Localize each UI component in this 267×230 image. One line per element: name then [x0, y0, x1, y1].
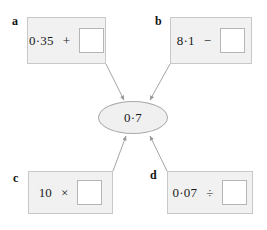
operand-a: 0·35 — [29, 33, 54, 49]
card-label-c: c — [13, 171, 18, 186]
arrow-from-card-a — [106, 64, 124, 100]
arrow-from-card-b — [150, 64, 170, 100]
division-sign-icon: ÷ — [206, 185, 213, 201]
target-value-text: 0·7 — [124, 110, 142, 126]
expression-card-a: 0·35 + — [27, 17, 106, 64]
answer-input-a[interactable] — [79, 28, 104, 53]
expression-row-b: 8·1 − — [177, 28, 245, 53]
card-label-b: b — [155, 14, 162, 29]
operand-b: 8·1 — [177, 33, 195, 49]
expression-row-c: 10 × — [39, 180, 103, 205]
arrow-from-card-c — [113, 136, 126, 171]
expression-card-b: 8·1 − — [170, 17, 252, 64]
plus-sign-icon: + — [63, 33, 70, 49]
answer-input-b[interactable] — [220, 28, 245, 53]
card-label-a: a — [12, 14, 18, 29]
card-label-d: d — [150, 168, 157, 183]
expression-card-c: 10 × — [28, 171, 113, 214]
answer-input-d[interactable] — [222, 180, 247, 205]
operand-c: 10 — [39, 185, 52, 201]
operand-d: 0·07 — [173, 185, 198, 201]
expression-card-d: 0·07 ÷ — [167, 171, 253, 214]
arrow-from-card-d — [150, 136, 167, 171]
expression-row-a: 0·35 + — [29, 28, 104, 53]
math-worksheet-diagram: a 0·35 + b 8·1 − 0·7 c 10 × d 0·07 ÷ — [0, 0, 267, 230]
answer-input-c[interactable] — [77, 180, 102, 205]
minus-sign-icon: − — [204, 33, 211, 49]
target-value-ellipse: 0·7 — [98, 101, 168, 134]
expression-row-d: 0·07 ÷ — [173, 180, 248, 205]
multiplication-sign-icon: × — [61, 185, 68, 201]
